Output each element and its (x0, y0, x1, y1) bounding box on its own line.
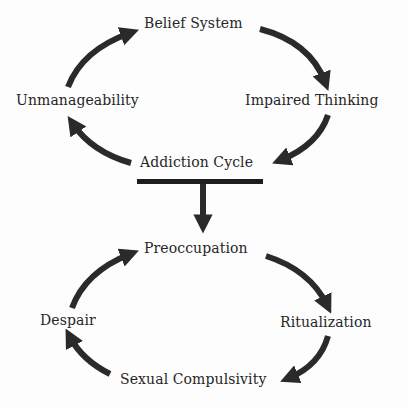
addiction-cycle-diagram: Belief System Impaired Thinking Addictio… (0, 0, 407, 407)
arrow-despair-to-preoccupation (72, 254, 130, 308)
node-preoccupation: Preoccupation (144, 240, 248, 256)
arrow-compulsivity-to-despair (70, 337, 110, 374)
arrow-addiction-to-unmanageability (73, 124, 131, 163)
arrow-ritualization-to-compulsivity (289, 336, 328, 378)
arrow-belief-to-impaired (260, 29, 325, 82)
node-ritualization: Ritualization (280, 314, 372, 330)
arrow-impaired-to-addiction (281, 115, 328, 160)
node-impaired-thinking: Impaired Thinking (245, 92, 378, 108)
connector-bar (137, 179, 263, 184)
node-belief-system: Belief System (144, 15, 243, 31)
node-unmanageability: Unmanageability (16, 92, 139, 108)
node-sexual-compulsivity: Sexual Compulsivity (120, 371, 266, 387)
node-despair: Despair (40, 312, 96, 328)
arrow-unmanageability-to-belief (68, 33, 130, 87)
node-addiction-cycle: Addiction Cycle (140, 154, 253, 170)
arrows-layer (0, 0, 407, 407)
arrow-preoccupation-to-ritualization (266, 256, 327, 305)
